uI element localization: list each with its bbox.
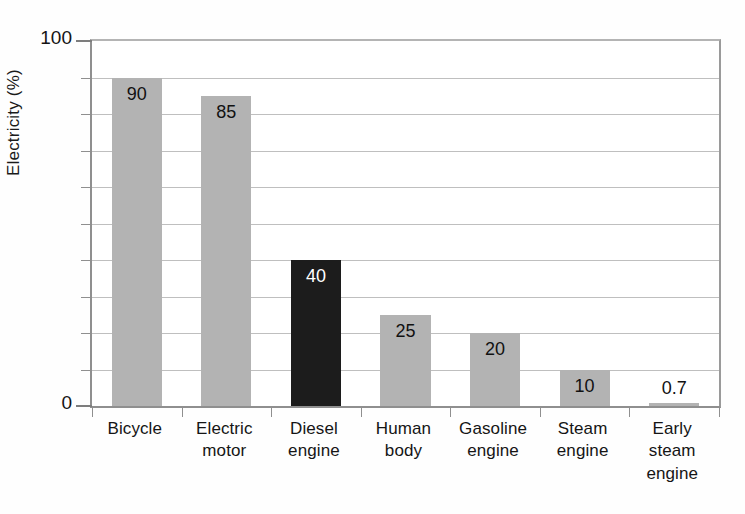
x-axis-category-label: Gasolineengine xyxy=(448,418,538,463)
plot-area: 9085402520100.7 xyxy=(90,39,721,408)
bar-slot: 0.7 xyxy=(629,41,719,406)
y-axis-tick-50 xyxy=(81,224,92,225)
x-axis-tick-5 xyxy=(540,406,541,417)
bar-value-label: 90 xyxy=(92,85,182,103)
y-axis-tick-100 xyxy=(76,40,92,42)
y-axis-tick-70 xyxy=(81,151,92,152)
bar-chart-figure: Electricity (%) 100 0 9085402520100.7 Bi… xyxy=(0,0,745,514)
bar-slot: 40 xyxy=(271,41,361,406)
y-axis-tick-label-0: 0 xyxy=(26,393,72,412)
category-label-line: engine xyxy=(538,440,628,462)
category-label-line: Early xyxy=(627,418,717,440)
x-axis-tick-0 xyxy=(92,406,93,417)
y-axis-tick-label-100: 100 xyxy=(26,28,72,47)
x-axis-category-label: Electricmotor xyxy=(180,418,270,463)
category-label-line: motor xyxy=(180,440,270,462)
y-axis-tick-10 xyxy=(81,370,92,371)
y-axis-tick-30 xyxy=(81,297,92,298)
x-axis-tick-2 xyxy=(271,406,272,417)
x-axis-category-label: Steamengine xyxy=(538,418,628,463)
bar-slot: 20 xyxy=(450,41,540,406)
y-axis-tick-90 xyxy=(81,78,92,79)
x-axis-category-label: Dieselengine xyxy=(269,418,359,463)
y-axis-tick-80 xyxy=(81,114,92,115)
x-axis-category-labels: BicycleElectricmotorDieselengineHumanbod… xyxy=(90,418,717,508)
bar-value-label: 25 xyxy=(361,322,451,340)
category-label-line: steam xyxy=(627,440,717,462)
y-axis-tick-20 xyxy=(81,333,92,334)
category-label-line: engine xyxy=(627,463,717,485)
x-axis-tick-3 xyxy=(361,406,362,417)
category-label-line: Human xyxy=(359,418,449,440)
bar-value-label: 20 xyxy=(450,340,540,358)
category-label-line: Diesel xyxy=(269,418,359,440)
y-axis-tick-60 xyxy=(81,187,92,188)
bar[interactable] xyxy=(201,96,251,406)
category-label-line: engine xyxy=(269,440,359,462)
bar-value-label: 40 xyxy=(271,267,361,285)
x-axis-tick-7 xyxy=(719,406,720,417)
category-label-line: engine xyxy=(448,440,538,462)
x-axis-tick-6 xyxy=(629,406,630,417)
bar-slot: 85 xyxy=(182,41,272,406)
x-axis-category-label: Humanbody xyxy=(359,418,449,463)
y-axis-title: Electricity (%) xyxy=(4,0,30,176)
bar-slot: 10 xyxy=(540,41,630,406)
y-axis-tick-0 xyxy=(76,405,92,407)
bar[interactable] xyxy=(649,403,699,406)
x-axis-tick-1 xyxy=(182,406,183,417)
bars-group: 9085402520100.7 xyxy=(92,41,719,406)
category-label-line: Bicycle xyxy=(90,418,180,440)
x-axis-category-label: Bicycle xyxy=(90,418,180,440)
bar[interactable] xyxy=(112,78,162,407)
category-label-line: Steam xyxy=(538,418,628,440)
y-axis-tick-40 xyxy=(81,260,92,261)
bar-value-label: 0.7 xyxy=(629,379,719,397)
bar-value-label: 10 xyxy=(540,377,630,395)
x-axis-tick-4 xyxy=(450,406,451,417)
bar-value-label: 85 xyxy=(182,103,272,121)
category-label-line: body xyxy=(359,440,449,462)
bar-slot: 90 xyxy=(92,41,182,406)
category-label-line: Gasoline xyxy=(448,418,538,440)
category-label-line: Electric xyxy=(180,418,270,440)
bar-slot: 25 xyxy=(361,41,451,406)
x-axis-category-label: Earlysteamengine xyxy=(627,418,717,485)
